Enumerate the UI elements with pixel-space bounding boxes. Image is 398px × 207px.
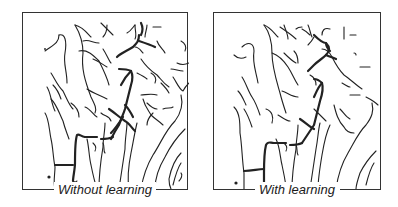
- panel-without-learning: Without learning: [22, 12, 188, 190]
- point-marker-icon: [47, 175, 50, 178]
- river-network-map: [23, 13, 189, 191]
- panel-with-learning: With learning: [213, 12, 381, 190]
- river-network-map: [214, 13, 380, 191]
- panel-caption: With learning: [214, 183, 380, 197]
- panel-caption: Without learning: [23, 183, 187, 197]
